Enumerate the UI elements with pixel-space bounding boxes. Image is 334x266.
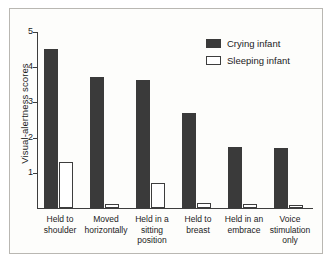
bar-sleeping-infant bbox=[59, 162, 73, 208]
bar-crying-infant bbox=[90, 77, 104, 208]
y-tick: 2 bbox=[37, 138, 42, 139]
filled-dark-swatch bbox=[206, 39, 221, 48]
x-tick-label: Voicestimulationonly bbox=[259, 214, 321, 246]
bar-crying-infant bbox=[182, 113, 196, 208]
y-tick-label: 1 bbox=[28, 167, 33, 178]
bar-crying-infant bbox=[136, 80, 150, 208]
bar-group bbox=[44, 32, 74, 208]
y-tick: 1 bbox=[37, 173, 42, 174]
y-tick-label: 2 bbox=[28, 132, 33, 143]
bar-crying-infant bbox=[44, 49, 58, 208]
y-tick-mark bbox=[33, 138, 38, 139]
bar-crying-infant bbox=[228, 147, 242, 208]
y-tick-mark bbox=[33, 173, 38, 174]
outlined-white-swatch bbox=[206, 56, 221, 65]
legend-label: Sleeping infant bbox=[227, 55, 290, 66]
y-axis-line bbox=[37, 32, 38, 208]
bar-sleeping-infant bbox=[197, 203, 211, 208]
bar-group bbox=[90, 32, 120, 208]
bar-crying-infant bbox=[274, 148, 288, 208]
y-tick-mark bbox=[33, 32, 38, 33]
y-tick-label: 4 bbox=[28, 61, 33, 72]
legend-item: Crying infant bbox=[206, 36, 290, 50]
y-tick-mark bbox=[33, 67, 38, 68]
y-tick-mark bbox=[33, 102, 38, 103]
bar-sleeping-infant bbox=[151, 183, 165, 208]
bar-sleeping-infant bbox=[243, 204, 257, 208]
y-tick-label: 5 bbox=[28, 26, 33, 37]
bar-group bbox=[136, 32, 166, 208]
bar-sleeping-infant bbox=[289, 205, 303, 208]
chart-legend: Crying infantSleeping infant bbox=[206, 36, 290, 70]
y-tick: 5 bbox=[37, 32, 42, 33]
y-tick-label: 3 bbox=[28, 96, 33, 107]
legend-label: Crying infant bbox=[227, 38, 280, 49]
chart-figure: Visual-alertness scores 12345 Held tosho… bbox=[0, 0, 334, 266]
x-axis-line bbox=[37, 208, 313, 209]
y-tick: 3 bbox=[37, 102, 42, 103]
bar-sleeping-infant bbox=[105, 204, 119, 208]
legend-item: Sleeping infant bbox=[206, 53, 290, 67]
y-tick: 4 bbox=[37, 67, 42, 68]
